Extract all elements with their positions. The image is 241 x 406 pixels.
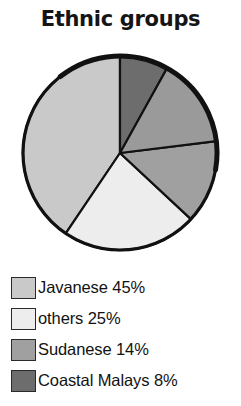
pie-chart bbox=[20, 52, 220, 254]
page-title: Ethnic groups bbox=[0, 6, 241, 32]
legend-item-others[interactable]: others 25% bbox=[11, 303, 239, 334]
legend-label-coastal-malays: Coastal Malays 8% bbox=[38, 371, 178, 390]
legend-label-javanese: Javanese 45% bbox=[38, 278, 145, 297]
legend-swatch-sudanese bbox=[11, 339, 36, 361]
legend-item-coastal-malays[interactable]: Coastal Malays 8% bbox=[11, 365, 239, 396]
legend: Javanese 45% others 25% Sudanese 14% Coa… bbox=[11, 272, 239, 396]
legend-item-sudanese[interactable]: Sudanese 14% bbox=[11, 334, 239, 365]
pie-chart-svg bbox=[20, 52, 220, 254]
legend-label-others: others 25% bbox=[38, 309, 120, 328]
legend-label-sudanese: Sudanese 14% bbox=[38, 340, 149, 359]
legend-swatch-javanese bbox=[11, 277, 36, 299]
legend-item-javanese[interactable]: Javanese 45% bbox=[11, 272, 239, 303]
legend-swatch-coastal-malays bbox=[11, 370, 36, 392]
legend-swatch-others bbox=[11, 308, 36, 330]
